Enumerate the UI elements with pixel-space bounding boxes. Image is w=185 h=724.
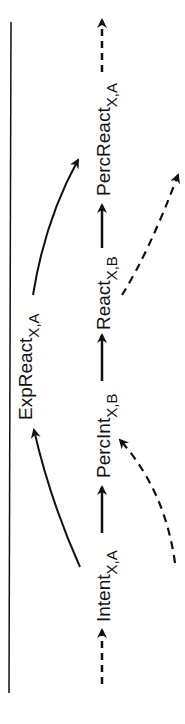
- curve-intent-to-expreact: [34, 430, 80, 567]
- node-percint: PercIntX,B: [93, 394, 120, 478]
- curve-external-to-percint: [120, 440, 175, 563]
- node-intent: IntentX,A: [93, 550, 120, 622]
- node-percreact: PercReactX,A: [93, 83, 120, 196]
- curve-react-to-external: [122, 175, 178, 295]
- node-expreact: ExpReactX,A: [15, 313, 42, 420]
- border-line: [9, 22, 11, 693]
- interaction-diagram: IntentX,A PercIntX,B ReactX,B PercReactX…: [0, 0, 185, 724]
- curve-expreact-to-percreact: [33, 160, 78, 295]
- node-react: ReactX,B: [93, 256, 120, 330]
